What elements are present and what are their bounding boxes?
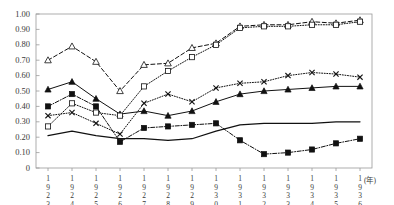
x-axis-tick-label: 1925: [92, 174, 100, 205]
x-axis-tick-label: 1923: [44, 174, 52, 205]
x-axis-tick-label: 1936: [356, 174, 364, 205]
x-axis-tick-label: 1930: [212, 174, 220, 205]
x-axis-tick-label: 1935: [332, 174, 340, 205]
x-axis-tick-label: 1934: [308, 174, 316, 205]
x-axis-tick-label: 1926: [116, 174, 124, 205]
series-open-square: [45, 19, 362, 129]
y-axis-tick-label: 0.80: [0, 40, 30, 49]
y-axis-tick-label: 0.40: [0, 102, 30, 111]
x-axis-tick-label: 1931: [236, 174, 244, 205]
y-axis-tick-label: 0.10: [0, 148, 30, 157]
x-axis-tick-label: 1933: [284, 174, 292, 205]
x-axis-unit-label: (年): [364, 174, 376, 185]
x-axis-tick-label: 1927: [140, 174, 148, 205]
line-chart: 1.000.900.800.700.600.500.400.300.200.10…: [0, 0, 394, 205]
x-axis-tick-label: 1928: [164, 174, 172, 205]
y-axis-tick-label: 0.20: [0, 133, 30, 142]
y-axis-tick-label: 0.30: [0, 117, 30, 126]
y-axis-tick-label: 0.90: [0, 25, 30, 34]
y-axis-tick-label: 1.00: [0, 10, 30, 19]
x-axis-tick-label: 1929: [188, 174, 196, 205]
x-axis-tick-label: 1932: [260, 174, 268, 205]
series-cross: [45, 70, 362, 137]
y-axis-tick-label: 0.60: [0, 71, 30, 80]
series-open-triangle: [45, 17, 364, 94]
y-axis-tick-label: 0.70: [0, 56, 30, 65]
x-axis-tick-label: 1924: [68, 174, 76, 205]
series-filled-triangle: [45, 79, 363, 119]
y-axis-tick-label: 0: [0, 164, 30, 173]
y-axis-tick-label: 0.50: [0, 87, 30, 96]
